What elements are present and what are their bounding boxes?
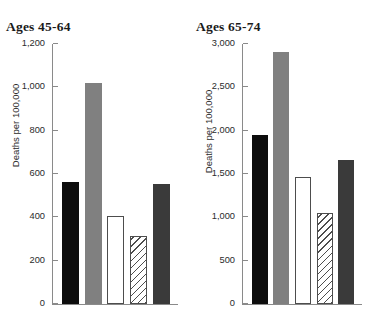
bar-slot	[292, 44, 314, 304]
bar-slot	[127, 44, 150, 304]
y-tick-label: 3,000	[212, 37, 235, 50]
y-tick-label: 500	[219, 254, 235, 267]
chart-panel-ages-45-64: Ages 45-64 Deaths per 100,000 0200400600…	[0, 0, 183, 325]
bar-slot	[249, 44, 271, 304]
y-tick-label: 600	[29, 167, 45, 180]
plot-area-left: 02004006008001,0001,200	[52, 44, 178, 305]
bars-right	[243, 44, 362, 304]
chart-title-right: Ages 65-74	[196, 19, 261, 35]
bar-white	[295, 177, 311, 304]
bar-gray	[85, 83, 102, 304]
bars-left	[53, 44, 178, 304]
bar-slot	[271, 44, 293, 304]
y-axis-label-right: Deaths per 100,000	[203, 67, 214, 197]
bar-black	[252, 135, 268, 304]
bar-slot	[82, 44, 105, 304]
bar-slot	[150, 44, 173, 304]
bar-slot	[335, 44, 357, 304]
bar-white	[107, 216, 124, 304]
y-tick-label: 800	[29, 124, 45, 137]
bar-slot	[59, 44, 82, 304]
bar-slot	[314, 44, 336, 304]
y-tick-label: 0	[40, 297, 45, 310]
bar-hatch	[130, 236, 147, 304]
y-tick-label: 200	[29, 254, 45, 267]
y-tick-label: 1,500	[212, 167, 235, 180]
bar-darkgray	[338, 160, 354, 304]
y-tick-label: 1,200	[22, 37, 45, 50]
bar-gray	[273, 52, 289, 304]
chart-panel-ages-65-74: Ages 65-74 Deaths per 100,000 05001,0001…	[183, 0, 367, 325]
plot-area-right: 05001,0001,5002,0002,5003,000	[242, 44, 362, 305]
y-tick-label: 1,000	[22, 80, 45, 93]
y-axis-label-left: Deaths per 100,000	[10, 61, 21, 191]
y-tick-label: 2,500	[212, 80, 235, 93]
y-tick-label: 400	[29, 210, 45, 223]
chart-title-left: Ages 45-64	[6, 19, 71, 35]
y-tick-label: 0	[230, 297, 235, 310]
y-tick-label: 2,000	[212, 124, 235, 137]
chart-pair: Ages 45-64 Deaths per 100,000 0200400600…	[0, 0, 367, 325]
bar-slot	[105, 44, 128, 304]
bar-hatch	[317, 213, 333, 304]
y-tick-label: 1,000	[212, 210, 235, 223]
bar-black	[62, 182, 79, 304]
bar-darkgray	[153, 184, 170, 304]
